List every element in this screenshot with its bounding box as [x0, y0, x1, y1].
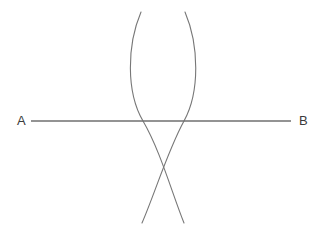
arc-from-b: [142, 12, 196, 223]
point-label-a: A: [17, 114, 26, 127]
construction-drawing: [0, 0, 322, 236]
point-label-b: B: [299, 114, 308, 127]
arc-from-a: [130, 12, 184, 223]
geometry-figure-canvas: A B: [0, 0, 322, 236]
